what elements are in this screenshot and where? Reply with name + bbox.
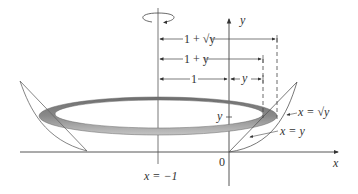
washer-method-diagram: y x 0 x = −1 1 + √y 1 + y 1 y y x = √y x… — [0, 0, 358, 194]
rotation-arrow-icon — [143, 13, 174, 24]
y-axis-label: y — [240, 14, 245, 26]
inner-radius-label: 1 + y — [184, 53, 209, 65]
segment-y-label: y — [242, 72, 247, 84]
height-marker-label: y — [217, 110, 222, 122]
origin-label: 0 — [219, 156, 225, 168]
offset-label: 1 — [191, 73, 197, 85]
outer-radius-label: 1 + √y — [184, 33, 215, 45]
line-label: x = y — [280, 125, 305, 137]
diagram-canvas — [0, 0, 358, 194]
sqrt-curve-label: x = √y — [298, 106, 329, 118]
left-reflected-region — [20, 81, 87, 151]
dimension-lines — [160, 35, 277, 83]
x-axis-label: x — [333, 157, 338, 169]
rotation-axis-label: x = −1 — [144, 170, 178, 182]
